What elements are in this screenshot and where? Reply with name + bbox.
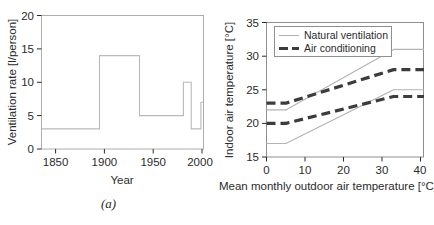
- x-axis-title-b: Mean monthly outdoor air temperature [°C…: [219, 180, 434, 192]
- chart-panel-b: 35 30 25 20 15 0 10 20 30 40 Mean monthl…: [217, 0, 434, 225]
- x-tick-label-b-10: 10: [299, 164, 312, 176]
- x-axis-ticks-b: [267, 157, 421, 162]
- series-air-conditioning-lower: [267, 97, 425, 124]
- x-tick-label-b-0: 0: [263, 164, 269, 176]
- y-tick-label-b-30: 30: [246, 50, 259, 62]
- y-axis-ticks-a: [37, 16, 42, 150]
- series-natural-ventilation-upper: [267, 49, 425, 110]
- y-axis-title-b: Indoor air temperature [°C]: [223, 22, 235, 158]
- y-tick-label-b-25: 25: [246, 84, 259, 96]
- chart-legend-b: Natural ventilation Air conditioning: [275, 27, 392, 57]
- y-tick-label-b-20: 20: [246, 117, 259, 129]
- panel-caption-a: (a): [0, 196, 217, 212]
- y-tick-label-a-0: 0: [28, 143, 34, 155]
- y-tick-label-a-20: 20: [21, 10, 34, 22]
- y-tick-label-b-35: 35: [246, 17, 259, 29]
- y-axis-ticks-b: [262, 23, 267, 158]
- y-tick-label-a-15: 15: [21, 43, 34, 55]
- series-air-conditioning-upper: [267, 70, 425, 104]
- legend-label-natural-ventilation: Natural ventilation: [304, 29, 388, 41]
- series-natural-ventilation-lower: [267, 90, 425, 144]
- series-ventilation-rate-step: [42, 56, 204, 129]
- chart-b-svg: 35 30 25 20 15 0 10 20 30 40 Mean monthl…: [217, 0, 434, 196]
- y-tick-label-b-15: 15: [246, 151, 259, 163]
- x-tick-label-b-30: 30: [376, 164, 389, 176]
- x-tick-label-a-1850: 1850: [43, 156, 69, 168]
- x-axis-ticks-a: [56, 149, 202, 154]
- chart-panel-a: 20 15 10 5 0 1850 1900 1950 2000 Year Ve…: [0, 0, 217, 225]
- chart-a-svg: 20 15 10 5 0 1850 1900 1950 2000 Year Ve…: [0, 0, 217, 196]
- y-tick-label-a-10: 10: [21, 76, 34, 88]
- x-tick-label-a-1900: 1900: [92, 156, 118, 168]
- legend-label-air-conditioning: Air conditioning: [304, 42, 376, 54]
- y-axis-title-a: Ventilation rate [l/person]: [6, 19, 18, 146]
- x-tick-label-b-40: 40: [414, 164, 427, 176]
- x-tick-label-a-1950: 1950: [140, 156, 166, 168]
- x-tick-label-b-20: 20: [337, 164, 350, 176]
- x-tick-label-a-2000: 2000: [187, 156, 213, 168]
- y-tick-label-a-5: 5: [28, 110, 34, 122]
- figure-container: 20 15 10 5 0 1850 1900 1950 2000 Year Ve…: [0, 0, 434, 225]
- x-axis-title-a: Year: [110, 174, 133, 186]
